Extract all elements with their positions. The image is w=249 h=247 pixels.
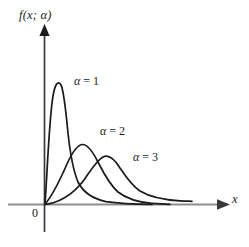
equals-sign: = — [83, 74, 90, 88]
alpha-symbol: α — [133, 150, 139, 164]
x-axis-label: x — [232, 192, 238, 207]
alpha-symbol: α — [74, 74, 80, 88]
curve-annotation-alpha-1: α = 1 — [74, 74, 99, 89]
y-axis-label: f(x; α) — [19, 8, 52, 23]
x-axis-arrowhead — [217, 199, 230, 210]
curve-annotation-alpha-2: α = 2 — [100, 124, 125, 139]
equals-sign: = — [142, 150, 149, 164]
origin-label: 0 — [32, 206, 38, 221]
alpha-symbol: α — [100, 124, 106, 138]
y-axis-arrowhead — [39, 24, 49, 36]
alpha-value: 1 — [93, 74, 99, 88]
equals-sign: = — [109, 124, 116, 138]
curve-annotation-alpha-3: α = 3 — [133, 150, 158, 165]
alpha-value: 3 — [152, 150, 158, 164]
alpha-value: 2 — [119, 124, 125, 138]
gamma-density-figure: f(x; α) x 0 α = 1 α = 2 α = 3 — [0, 0, 249, 247]
density-curve-alpha-1 — [45, 83, 152, 205]
x-axis — [8, 199, 230, 210]
